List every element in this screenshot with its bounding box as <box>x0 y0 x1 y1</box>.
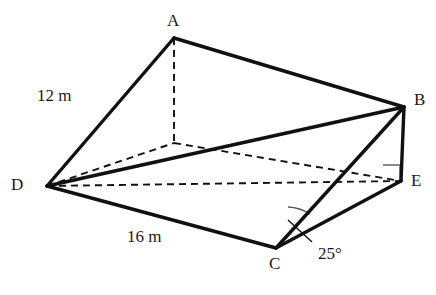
edge-D-B <box>47 107 404 186</box>
visible-edges <box>47 38 404 248</box>
edge-C-E <box>276 181 401 248</box>
edge-D-E <box>47 181 401 186</box>
vertex-label-C: C <box>269 255 280 272</box>
edge-D-C <box>47 186 276 248</box>
vertex-label-E: E <box>411 172 421 189</box>
edge-length-label-DC: 16 m <box>127 228 161 245</box>
vertex-label-D: D <box>11 176 23 193</box>
edge-B-E <box>401 107 404 181</box>
vertex-label-B: B <box>414 91 425 108</box>
edge-C-B <box>276 107 404 248</box>
angle-label-25deg: 25° <box>318 245 342 262</box>
edge-A-B <box>174 38 404 107</box>
vertex-label-A: A <box>167 12 179 29</box>
geometry-diagram <box>0 0 436 295</box>
hidden-edges <box>47 38 401 186</box>
edge-length-label-AD: 12 m <box>37 87 71 104</box>
